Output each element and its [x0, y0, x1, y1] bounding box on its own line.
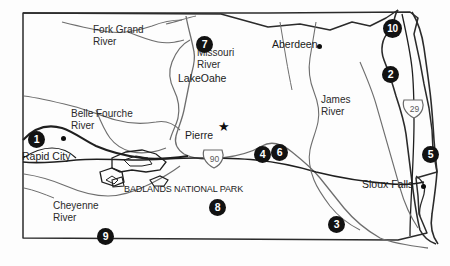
map-marker-1[interactable]: 1 [28, 131, 45, 148]
map-marker-8[interactable]: 8 [209, 199, 226, 216]
map-marker-6[interactable]: 6 [271, 144, 288, 161]
map-marker-4[interactable]: 4 [254, 146, 271, 163]
map-marker-2[interactable]: 2 [382, 66, 399, 83]
map-marker-10[interactable]: 10 [383, 19, 402, 38]
map-marker-7[interactable]: 7 [196, 36, 213, 53]
map-geometry [0, 0, 450, 266]
map-marker-3[interactable]: 3 [328, 216, 345, 233]
map-container: 90 29 ★ Rapid City Aberdeen Pierre Sioux… [0, 0, 450, 266]
map-marker-5[interactable]: 5 [422, 146, 439, 163]
state-outline [23, 10, 437, 240]
map-marker-9[interactable]: 9 [97, 228, 114, 245]
